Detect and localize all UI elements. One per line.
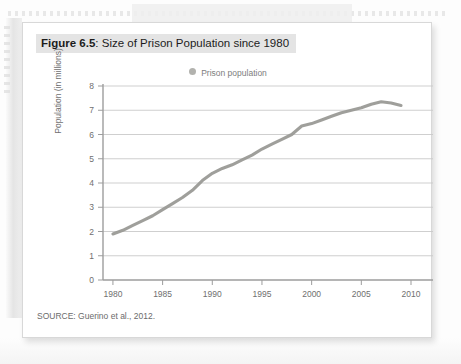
- grid-lines: [103, 86, 433, 256]
- data-series-group: [113, 102, 401, 234]
- svg-text:7: 7: [89, 105, 94, 115]
- svg-text:4: 4: [89, 178, 94, 188]
- svg-text:1: 1: [89, 251, 94, 261]
- svg-text:1980: 1980: [103, 289, 122, 299]
- svg-text:8: 8: [89, 81, 94, 91]
- svg-text:2000: 2000: [302, 289, 321, 299]
- axis-lines: [103, 84, 433, 280]
- y-axis-title: Population (in millions): [53, 31, 63, 151]
- svg-text:1995: 1995: [253, 289, 272, 299]
- svg-text:3: 3: [89, 202, 94, 212]
- y-axis-ticks: 012345678: [89, 81, 103, 285]
- line-chart-svg: 012345678 1980198519901995200020052010: [23, 23, 433, 339]
- svg-text:1990: 1990: [203, 289, 222, 299]
- scan-left-perforation-artifact: [4, 26, 10, 96]
- svg-text:1985: 1985: [153, 289, 172, 299]
- svg-text:2010: 2010: [402, 289, 421, 299]
- figure-card: Figure 6.5: Size of Prison Population si…: [22, 22, 432, 338]
- svg-text:2: 2: [89, 227, 94, 237]
- chart-plot-area: 012345678 1980198519901995200020052010 P…: [23, 23, 433, 339]
- svg-text:0: 0: [89, 275, 94, 285]
- scan-top-shadow-band: [132, 4, 352, 22]
- x-axis-ticks: 1980198519901995200020052010: [103, 280, 420, 299]
- svg-text:5: 5: [89, 154, 94, 164]
- svg-text:2005: 2005: [352, 289, 371, 299]
- figure-source-note: SOURCE: Guerino et al., 2012.: [37, 311, 155, 321]
- scan-bottom-shadow: [0, 338, 461, 364]
- svg-text:6: 6: [89, 130, 94, 140]
